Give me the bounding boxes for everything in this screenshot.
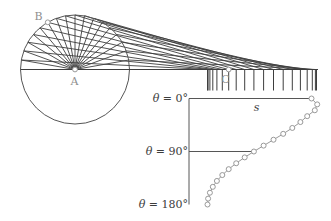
data-point-marker xyxy=(242,155,247,160)
data-point-marker xyxy=(309,96,314,101)
data-point-marker xyxy=(205,202,210,207)
data-point-marker xyxy=(271,137,276,142)
point-label-A: A xyxy=(71,75,79,88)
data-point-marker xyxy=(234,161,239,166)
data-point-marker xyxy=(261,143,266,148)
data-point-marker xyxy=(281,131,286,136)
data-point-marker xyxy=(214,178,219,183)
crank-ray-fan xyxy=(21,15,128,70)
plot-frame xyxy=(189,99,312,205)
axis-label-theta-0: θ = 0° xyxy=(153,92,188,105)
axis-label-theta-180: θ = 180° xyxy=(139,198,188,211)
data-point-marker xyxy=(312,108,317,113)
data-point-marker xyxy=(305,114,310,119)
axis-label-theta-90: θ = 90° xyxy=(146,145,188,158)
data-point-marker xyxy=(207,190,212,195)
data-point-marker xyxy=(206,196,211,201)
marker-C xyxy=(226,67,231,72)
data-point-marker xyxy=(251,149,256,154)
data-point-marker xyxy=(210,184,215,189)
data-point-marker xyxy=(315,102,320,107)
theta-0-value: = 0° xyxy=(159,92,188,105)
data-point-marker xyxy=(290,125,295,130)
marker-B xyxy=(45,20,50,25)
axis-label-s: s xyxy=(254,101,260,114)
data-point-marker xyxy=(226,167,231,172)
point-label-C: C xyxy=(221,73,229,86)
theta-90-value: = 90° xyxy=(152,145,188,158)
data-point-marker xyxy=(220,173,225,178)
marker-A xyxy=(73,67,78,72)
data-point-marker xyxy=(298,120,303,125)
mechanism-figure xyxy=(0,0,331,221)
figure-crank-slider: B A C θ = 0° θ = 90° θ = 180° s xyxy=(0,0,331,221)
point-label-B: B xyxy=(34,10,42,23)
theta-180-value: = 180° xyxy=(145,198,188,211)
